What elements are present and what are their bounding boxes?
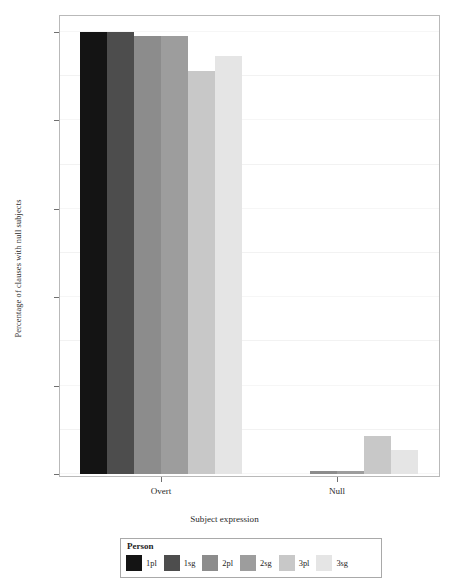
- plot-panel: [59, 15, 440, 477]
- chart-figure: Percentage of clauses with null subjects…: [0, 0, 449, 586]
- legend-swatch-icon: [279, 555, 295, 571]
- legend-item-3sg[interactable]: 3sg: [316, 555, 352, 571]
- legend-label: 2pl: [222, 559, 233, 568]
- bar-overt-1pl: [80, 32, 107, 474]
- bar-null-2pl: [310, 471, 337, 474]
- legend-swatch-icon: [316, 555, 332, 571]
- bar-null-2sg: [337, 471, 364, 474]
- legend-items: 1pl1sg2pl2sg3pl3sg: [126, 555, 355, 571]
- x-axis-title: Subject expression: [0, 514, 449, 524]
- y-axis-title: Percentage of clauses with null subjects: [14, 159, 23, 379]
- bar-null-3pl: [364, 436, 391, 474]
- bar-overt-3pl: [188, 71, 215, 474]
- x-tick-mark: [337, 477, 338, 482]
- x-tick-label-overt: Overt: [121, 486, 201, 496]
- legend-label: 3pl: [299, 559, 310, 568]
- bar-overt-1sg: [107, 32, 134, 474]
- legend-label: 1pl: [146, 559, 157, 568]
- legend-label: 3sg: [336, 559, 348, 568]
- legend-label: 2sg: [260, 559, 272, 568]
- bar-overt-2pl: [134, 36, 161, 474]
- legend-label: 1sg: [184, 559, 196, 568]
- legend-item-3pl[interactable]: 3pl: [279, 555, 314, 571]
- x-tick-mark: [161, 477, 162, 482]
- legend-swatch-icon: [164, 555, 180, 571]
- legend: Person 1pl1sg2pl2sg3pl3sg: [120, 538, 382, 578]
- legend-swatch-icon: [126, 555, 142, 571]
- bar-null-3sg: [391, 450, 418, 474]
- legend-item-2sg[interactable]: 2sg: [240, 555, 276, 571]
- legend-item-1pl[interactable]: 1pl: [126, 555, 161, 571]
- legend-item-2pl[interactable]: 2pl: [202, 555, 237, 571]
- legend-title: Person: [127, 541, 154, 551]
- legend-swatch-icon: [240, 555, 256, 571]
- legend-item-1sg[interactable]: 1sg: [164, 555, 200, 571]
- bar-overt-3sg: [215, 56, 242, 474]
- x-tick-label-null: Null: [297, 486, 377, 496]
- legend-swatch-icon: [202, 555, 218, 571]
- plot-area: [60, 16, 439, 476]
- bar-overt-2sg: [161, 36, 188, 474]
